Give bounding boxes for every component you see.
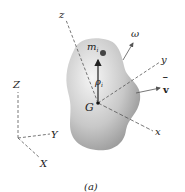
figure-caption: (a) (84, 181, 98, 192)
body-y-label: y (160, 54, 167, 65)
fixed-Y-axis (18, 134, 50, 138)
center-of-mass-label: G (85, 101, 94, 114)
fixed-X-axis (18, 138, 40, 158)
body-x-label: x (155, 126, 161, 137)
body-z-label: z (58, 9, 65, 20)
rigid-body-diagram: z y x ω ‾ v ρi mi G Z Y X (a) (0, 0, 185, 192)
velocity-arrow (136, 88, 160, 93)
omega-arrow (123, 43, 133, 60)
center-of-mass-point (96, 101, 100, 105)
velocity-label: v (162, 84, 170, 95)
fixed-Y-label: Y (51, 129, 59, 140)
fixed-Z-label: Z (12, 79, 21, 90)
fixed-X-label: X (39, 158, 48, 169)
mass-particle (100, 50, 106, 56)
omega-label: ω (131, 28, 139, 39)
